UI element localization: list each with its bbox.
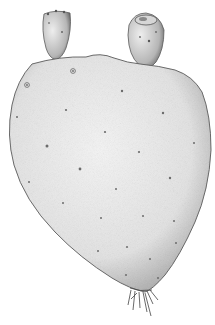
cactus-drawing — [0, 0, 215, 325]
root-base — [128, 288, 158, 316]
botanical-illustration — [0, 0, 215, 325]
right-fruit — [128, 13, 164, 68]
cactus-pad — [9, 55, 211, 292]
left-fruit — [43, 10, 71, 60]
